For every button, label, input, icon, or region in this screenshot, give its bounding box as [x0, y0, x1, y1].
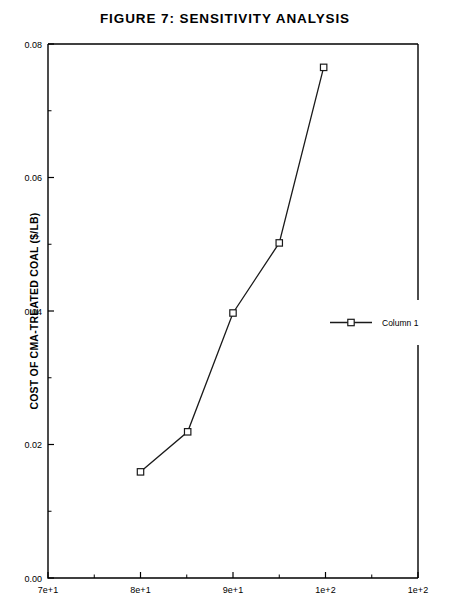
svg-text:1e+2: 1e+2	[315, 585, 335, 595]
svg-text:9e+1: 9e+1	[223, 585, 243, 595]
svg-text:7e+1: 7e+1	[38, 585, 58, 595]
chart-plot: 7e+18e+19e+11e+21e+2 0.000.020.040.060.0…	[0, 0, 450, 613]
svg-text:8e+1: 8e+1	[130, 585, 150, 595]
svg-text:0.08: 0.08	[24, 40, 42, 50]
svg-text:COST OF CMA-TREATED COAL ($/LB: COST OF CMA-TREATED COAL ($/LB)	[28, 212, 40, 409]
x-axis-ticks	[48, 572, 418, 578]
figure-container: FIGURE 7: SENSITIVITY ANALYSIS 7e+18e+19…	[0, 0, 450, 613]
svg-text:0.06: 0.06	[24, 173, 42, 183]
svg-text:Column 1: Column 1	[382, 318, 419, 328]
y-axis-ticks	[48, 44, 54, 578]
x-axis-tick-labels: 7e+18e+19e+11e+21e+2	[38, 585, 428, 595]
svg-text:1e+2: 1e+2	[408, 585, 428, 595]
svg-text:0.02: 0.02	[24, 440, 42, 450]
y-axis-title: COST OF CMA-TREATED COAL ($/LB)	[28, 212, 40, 409]
data-series-column-1	[137, 64, 327, 475]
legend: Column 1	[330, 318, 419, 328]
svg-text:0.00: 0.00	[24, 574, 42, 584]
